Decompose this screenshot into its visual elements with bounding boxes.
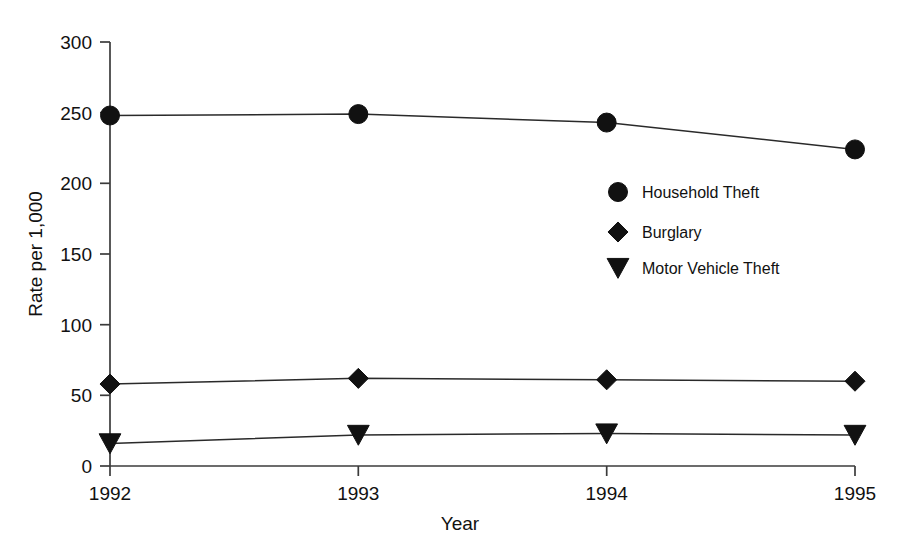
series-markers-household-theft xyxy=(101,105,865,159)
y-tick-label-300: 300 xyxy=(60,32,92,53)
y-tick-label-100: 100 xyxy=(60,315,92,336)
legend-marker-glyph xyxy=(607,258,629,278)
series-markers-motor-vehicle-theft xyxy=(99,424,866,454)
data-point xyxy=(597,113,616,132)
legend-marker-glyph xyxy=(609,183,628,202)
x-tick-label-1994: 1994 xyxy=(586,483,629,504)
y-tick-label-150: 150 xyxy=(60,244,92,265)
data-point xyxy=(101,106,120,125)
data-point xyxy=(846,140,865,159)
line-chart: 300 250 200 150 100 50 0 1992 1993 1994 … xyxy=(0,0,905,550)
series-line-motor-vehicle-theft xyxy=(110,433,855,443)
y-tick-label-250: 250 xyxy=(60,103,92,124)
series-line-burglary xyxy=(110,378,855,384)
x-tick-label-1992: 1992 xyxy=(89,483,131,504)
legend-marker-diamond-icon xyxy=(608,222,628,242)
legend-label-motor-vehicle-theft: Motor Vehicle Theft xyxy=(642,260,780,277)
y-tick-label-50: 50 xyxy=(71,385,92,406)
legend-label-burglary: Burglary xyxy=(642,224,702,241)
series-lines xyxy=(110,114,855,443)
x-axis-title: Year xyxy=(441,513,480,534)
legend-marker-triangle-down-icon xyxy=(607,258,629,278)
series-line-household-theft xyxy=(110,114,855,149)
data-point xyxy=(349,105,368,124)
data-point xyxy=(100,374,120,394)
legend: Household Theft Burglary Motor Vehicle T… xyxy=(607,183,780,279)
data-point xyxy=(845,371,865,391)
data-point xyxy=(597,370,617,390)
legend-marker-glyph xyxy=(608,222,628,242)
y-tick-label-0: 0 xyxy=(81,456,92,477)
y-axis-title: Rate per 1,000 xyxy=(25,191,46,317)
legend-marker-circle-icon xyxy=(609,183,628,202)
data-point xyxy=(348,368,368,388)
legend-label-household-theft: Household Theft xyxy=(642,184,760,201)
y-tick-label-200: 200 xyxy=(60,173,92,194)
x-tick-label-1995: 1995 xyxy=(834,483,876,504)
chart-container: 300 250 200 150 100 50 0 1992 1993 1994 … xyxy=(0,0,905,550)
x-tick-label-1993: 1993 xyxy=(337,483,379,504)
